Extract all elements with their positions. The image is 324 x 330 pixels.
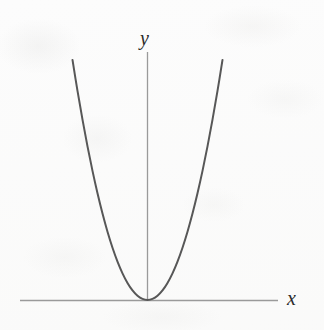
x-axis-label: x — [287, 288, 296, 308]
figure-canvas: y x — [0, 0, 324, 330]
y-axis-label: y — [140, 28, 149, 48]
parabola-figure — [0, 0, 324, 330]
